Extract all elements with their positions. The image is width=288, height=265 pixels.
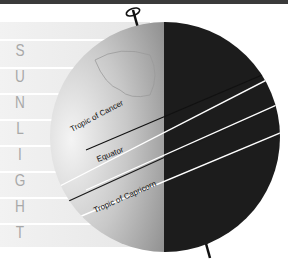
earth-globe: Tropic of Cancer Equator Tropic of Capri… xyxy=(0,0,288,265)
night-side xyxy=(164,20,284,260)
axis-north xyxy=(133,10,138,28)
